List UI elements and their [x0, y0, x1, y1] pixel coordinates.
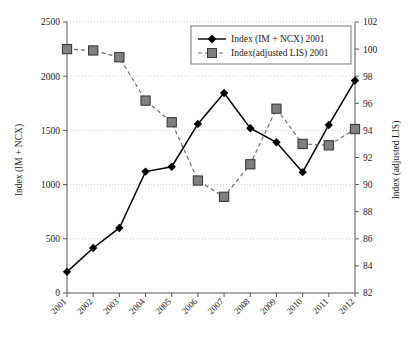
data-point-2004 — [141, 96, 150, 105]
data-point-2007 — [219, 192, 228, 201]
right-tick-label: 92 — [363, 153, 373, 163]
left-tick-label: 1500 — [41, 126, 60, 136]
left-tick-label: 1000 — [41, 180, 60, 190]
data-point-2011 — [324, 141, 333, 150]
right-tick-label: 86 — [363, 234, 373, 244]
chart-figure: 05001000150020002500 8284868890929496981… — [0, 0, 418, 341]
legend-label-series-1: Index (IM + NCX) 2001 — [231, 34, 325, 45]
left-tick-label: 500 — [46, 234, 61, 244]
right-tick-label: 98 — [363, 72, 373, 82]
right-tick-label: 90 — [363, 180, 373, 190]
left-tick-label: 2000 — [41, 72, 60, 82]
right-tick-label: 94 — [363, 126, 373, 136]
data-point-2005 — [167, 118, 176, 127]
data-point-2001 — [62, 45, 71, 54]
square-icon — [208, 49, 217, 58]
right-tick-label: 100 — [363, 45, 378, 55]
right-axis-title: Index (adjusted LIS) — [391, 121, 402, 200]
legend-label-series-2: Index(adjusted LIS) 2001 — [231, 48, 329, 59]
left-tick-label: 2500 — [41, 17, 60, 27]
data-point-2008 — [246, 160, 255, 169]
right-tick-label: 88 — [363, 207, 373, 217]
data-point-2006 — [193, 176, 202, 185]
right-tick-label: 82 — [363, 288, 373, 298]
data-point-2012 — [350, 124, 359, 133]
right-tick-label: 96 — [363, 99, 373, 109]
right-tick-label: 84 — [363, 261, 373, 271]
data-point-2009 — [272, 104, 281, 113]
right-tick-label: 102 — [363, 17, 378, 27]
legend: Index (IM + NCX) 2001 Index(adjusted LIS… — [191, 26, 351, 64]
data-point-2010 — [298, 139, 307, 148]
data-point-2002 — [89, 46, 98, 55]
data-point-2003 — [115, 53, 124, 62]
line-chart: 05001000150020002500 8284868890929496981… — [0, 0, 418, 341]
left-axis-title: Index (IM + NCX) — [14, 124, 25, 196]
